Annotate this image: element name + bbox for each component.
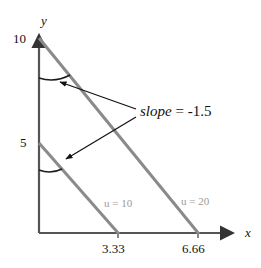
line-u-10: [39, 143, 119, 234]
figure-canvas: y x 10 5 3.33 6.66 u = 10 u = 20 slope =…: [0, 0, 261, 268]
x-tick-label-6-66: 6.66: [182, 242, 205, 255]
slope-annotation-value: = -1.5: [175, 103, 211, 119]
y-axis-label: y: [41, 14, 47, 27]
slope-annotation-word: slope: [140, 103, 172, 119]
curve-label-u-20: u = 20: [181, 196, 209, 207]
annotation-arrow-upper: [60, 82, 136, 109]
slope-annotation: slope = -1.5: [140, 104, 211, 119]
angle-arc-upper: [39, 75, 70, 80]
y-tick-label-5: 5: [20, 136, 27, 149]
plot-svg: [0, 0, 261, 268]
curve-label-u-10: u = 10: [104, 198, 132, 209]
angle-arc-lower: [39, 169, 62, 172]
x-axis-label: x: [245, 226, 251, 239]
annotation-arrow-lower: [66, 117, 136, 159]
x-tick-label-3-33: 3.33: [102, 242, 125, 255]
y-tick-label-10: 10: [13, 32, 26, 45]
